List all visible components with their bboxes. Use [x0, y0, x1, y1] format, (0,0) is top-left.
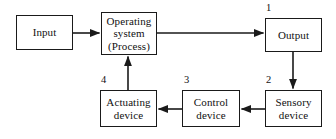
node-number-label-sensory: 2: [266, 74, 271, 85]
node-actuating-device: Actuating device: [100, 90, 157, 127]
node-output: Output: [265, 18, 322, 52]
node-output-label: Output: [278, 29, 309, 42]
node-operating-system: Operating system (Process): [101, 12, 157, 55]
node-input-label: Input: [33, 26, 57, 39]
node-actuating-device-label-line2: device: [114, 109, 143, 122]
node-actuating-device-label-line1: Actuating: [106, 96, 150, 109]
node-control-device-label-line2: device: [196, 109, 225, 122]
node-operating-system-label-line3: (Process): [108, 40, 150, 53]
node-number-label-output: 1: [266, 2, 271, 13]
node-control-device: Control device: [182, 90, 240, 127]
node-sensory-device-label-line1: Sensory: [275, 96, 311, 109]
node-sensory-device: Sensory device: [265, 90, 322, 127]
node-operating-system-label-line2: system: [113, 27, 144, 40]
node-number-label-control: 3: [184, 74, 189, 85]
control-system-diagram: Input Operating system (Process) Output …: [0, 0, 336, 139]
node-input: Input: [16, 15, 73, 50]
node-operating-system-label-line1: Operating: [107, 15, 152, 28]
node-number-label-actuating: 4: [101, 74, 106, 85]
node-sensory-device-label-line2: device: [279, 109, 308, 122]
node-control-device-label-line1: Control: [194, 96, 228, 109]
